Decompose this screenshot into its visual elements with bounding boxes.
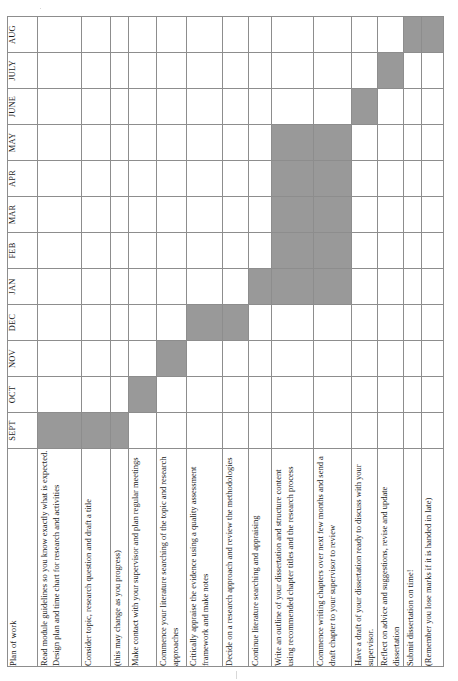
gantt-bar-cell-filled [313, 269, 351, 305]
gantt-bar-cell-empty [38, 89, 82, 125]
header-row: Plan of work SEPT OCT NOV DEC JAN FEB MA… [8, 17, 38, 667]
table-row: Have a draft of your dissertation ready … [352, 17, 378, 667]
table-row: Commence writing chapters over next few … [313, 17, 351, 667]
task-label-cell: Write an outline of your dissertation an… [271, 449, 313, 667]
task-label-cell: Consider topic, research question and dr… [82, 449, 110, 667]
gantt-bar-cell-empty [82, 17, 110, 53]
gantt-bar-cell-empty [187, 413, 223, 449]
gantt-bar-cell-empty [403, 161, 421, 197]
gantt-chart: Plan of work SEPT OCT NOV DEC JAN FEB MA… [7, 17, 444, 667]
gantt-bar-cell-empty [249, 161, 271, 197]
gantt-bar-cell-filled [271, 233, 313, 269]
table-row: Decide on a research approach and review… [223, 17, 249, 667]
gantt-bar-cell-empty [378, 269, 403, 305]
gantt-bar-cell-empty [249, 125, 271, 161]
gantt-bar-cell-empty [82, 305, 110, 341]
gantt-bar-cell-empty [38, 53, 82, 89]
gantt-bar-cell-empty [313, 413, 351, 449]
table-row: Read module guidelines so you know exact… [38, 17, 82, 667]
gantt-bar-cell-empty [249, 89, 271, 125]
task-label-cell: Critically appraise the evidence using a… [187, 449, 223, 667]
gantt-bar-cell-empty [82, 377, 110, 413]
gantt-bar-cell-empty [82, 269, 110, 305]
table-row: Submit dissertation on time! [403, 17, 421, 667]
gantt-bar-cell-empty [352, 17, 378, 53]
gantt-bar-cell-empty [352, 125, 378, 161]
task-label-cell: Make contact with your supervisor and pl… [128, 449, 156, 667]
gantt-bar-cell-empty [156, 53, 186, 89]
gantt-bar-cell-empty [421, 341, 443, 377]
gantt-bar-cell-empty [313, 17, 351, 53]
gantt-bar-cell-empty [187, 125, 223, 161]
gantt-bar-cell-empty [38, 341, 82, 377]
gantt-bar-cell-empty [403, 125, 421, 161]
gantt-bar-cell-empty [313, 377, 351, 413]
gantt-bar-cell-empty [403, 89, 421, 125]
gantt-bar-cell-empty [223, 233, 249, 269]
gantt-bar-cell-empty [249, 17, 271, 53]
table-row: (this may change as you progress) [110, 17, 128, 667]
gantt-bar-cell-empty [223, 53, 249, 89]
gantt-bar-cell-empty [38, 269, 82, 305]
gantt-bar-cell-empty [156, 161, 186, 197]
gantt-bar-cell-empty [156, 125, 186, 161]
month-header-may: MAY [8, 125, 38, 161]
gantt-bar-cell-empty [128, 233, 156, 269]
gantt-bar-cell-empty [82, 197, 110, 233]
gantt-bar-cell-filled [421, 17, 443, 53]
table-row: Make contact with your supervisor and pl… [128, 17, 156, 667]
gantt-bar-cell-empty [421, 269, 443, 305]
gantt-bar-cell-empty [223, 413, 249, 449]
gantt-bar-cell-empty [352, 413, 378, 449]
gantt-bar-cell-empty [156, 305, 186, 341]
month-header-apr: APR [8, 161, 38, 197]
gantt-bar-cell-empty [82, 89, 110, 125]
gantt-bar-cell-empty [223, 341, 249, 377]
scan-artifact-left [236, 671, 237, 679]
gantt-bar-cell-filled [249, 269, 271, 305]
gantt-bar-cell-empty [378, 377, 403, 413]
gantt-bar-cell-empty [223, 125, 249, 161]
gantt-bar-cell-empty [38, 233, 82, 269]
gantt-bar-cell-filled [38, 413, 82, 449]
gantt-bar-cell-empty [156, 269, 186, 305]
gantt-bar-cell-empty [403, 305, 421, 341]
gantt-bar-cell-empty [378, 413, 403, 449]
gantt-bar-cell-empty [38, 17, 82, 53]
gantt-bar-cell-empty [38, 161, 82, 197]
table-row: Consider topic, research question and dr… [82, 17, 110, 667]
gantt-bar-cell-empty [378, 305, 403, 341]
gantt-bar-cell-empty [110, 17, 128, 53]
month-header-dec: DEC [8, 305, 38, 341]
gantt-bar-cell-empty [313, 89, 351, 125]
task-label-cell: Commence your literature searching of th… [156, 449, 186, 667]
month-header-aug: AUG [8, 17, 38, 53]
task-label-cell: Have a draft of your dissertation ready … [352, 449, 378, 667]
gantt-bar-cell-filled [223, 305, 249, 341]
month-header-nov: NOV [8, 341, 38, 377]
gantt-bar-cell-empty [110, 161, 128, 197]
gantt-bar-cell-empty [249, 53, 271, 89]
month-header-mar: MAR [8, 197, 38, 233]
task-label-cell: (Remember you lose marks if it is handed… [421, 449, 443, 667]
gantt-bar-cell-empty [249, 305, 271, 341]
month-header-jan: JAN [8, 269, 38, 305]
gantt-bar-cell-empty [421, 197, 443, 233]
gantt-body: Read module guidelines so you know exact… [38, 17, 444, 667]
month-header-oct: OCT [8, 377, 38, 413]
table-row: Commence your literature searching of th… [156, 17, 186, 667]
gantt-bar-cell-empty [403, 197, 421, 233]
table-row: Write an outline of your dissertation an… [271, 17, 313, 667]
gantt-bar-cell-empty [352, 341, 378, 377]
gantt-bar-cell-empty [421, 377, 443, 413]
gantt-bar-cell-empty [187, 17, 223, 53]
gantt-bar-cell-empty [128, 269, 156, 305]
gantt-bar-cell-empty [156, 89, 186, 125]
gantt-bar-cell-empty [128, 413, 156, 449]
gantt-bar-cell-empty [110, 233, 128, 269]
gantt-bar-cell-empty [128, 197, 156, 233]
gantt-bar-cell-filled [271, 197, 313, 233]
gantt-bar-cell-empty [128, 161, 156, 197]
gantt-bar-cell-filled [187, 305, 223, 341]
table-row: (Remember you lose marks if it is handed… [421, 17, 443, 667]
